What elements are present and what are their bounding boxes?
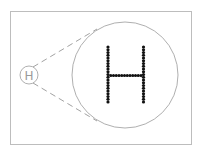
- dot: [142, 98, 145, 101]
- dot: [142, 48, 145, 51]
- dot: [117, 74, 120, 77]
- dot: [120, 74, 123, 77]
- dot: [142, 81, 145, 84]
- dot: [142, 92, 145, 95]
- dot: [106, 67, 109, 70]
- dot: [142, 62, 145, 65]
- dot: [106, 81, 109, 84]
- dot: [106, 51, 109, 54]
- dot: [109, 74, 112, 77]
- dot: [142, 100, 145, 103]
- dot: [106, 78, 109, 81]
- dot: [142, 51, 145, 54]
- dot: [142, 87, 145, 90]
- dot: [106, 45, 109, 48]
- dot: [142, 84, 145, 87]
- dot: [142, 70, 145, 73]
- dot: [115, 74, 118, 77]
- dot: [106, 89, 109, 92]
- dot: [106, 92, 109, 95]
- dot: [106, 62, 109, 65]
- dot: [142, 89, 145, 92]
- dot: [106, 54, 109, 57]
- dot: [142, 59, 145, 62]
- dot: [112, 74, 115, 77]
- dot: [123, 74, 126, 77]
- dot: [142, 65, 145, 68]
- dot: [106, 87, 109, 90]
- dot: [106, 98, 109, 101]
- dot: [106, 65, 109, 68]
- dot: [142, 78, 145, 81]
- dot: [106, 100, 109, 103]
- dot: [134, 74, 137, 77]
- dot: [137, 74, 140, 77]
- dot: [142, 67, 145, 70]
- dot: [106, 59, 109, 62]
- dot: [131, 74, 134, 77]
- dot: [142, 56, 145, 59]
- dot: [106, 84, 109, 87]
- dot: [106, 76, 109, 79]
- dot: [142, 54, 145, 57]
- dot: [126, 74, 129, 77]
- dot: [142, 45, 145, 48]
- dot: [106, 73, 109, 76]
- dot: [106, 95, 109, 98]
- dot: [142, 95, 145, 98]
- dot: [106, 70, 109, 73]
- dot: [128, 74, 131, 77]
- magnification-diagram: H: [0, 0, 199, 149]
- dot: [106, 48, 109, 51]
- small-letter-h: H: [24, 69, 33, 83]
- dot: [139, 74, 142, 77]
- dot: [106, 56, 109, 59]
